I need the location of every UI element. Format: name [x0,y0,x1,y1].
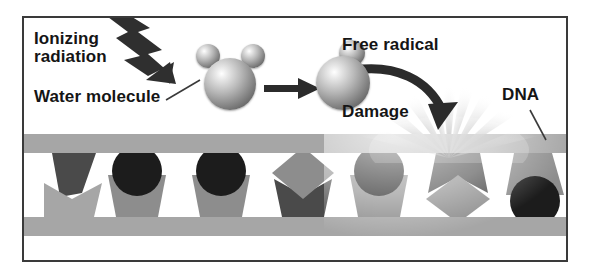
label-water-molecule: Water molecule [34,88,160,106]
label-free-radical: Free radical [342,36,439,54]
damage-glow [324,134,568,236]
figure-frame: Ionizing radiation Water molecule Free r… [22,16,568,262]
figure-canvas: Ionizing radiation Water molecule Free r… [0,0,591,274]
right-arrow-icon [264,78,320,99]
leader-line-water [166,80,200,100]
zigzag-arrow-icon [104,18,176,84]
label-damage: Damage [342,103,409,121]
label-ionizing-radiation: Ionizing radiation [34,30,107,66]
label-dna: DNA [502,86,539,104]
water-oxygen-sphere [204,58,256,110]
